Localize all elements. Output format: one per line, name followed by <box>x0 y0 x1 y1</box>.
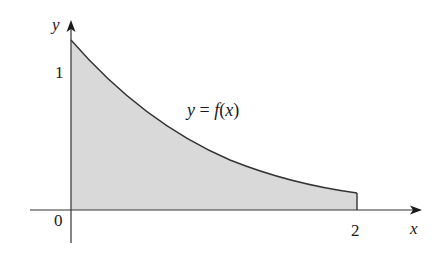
x-tick-2-label: 2 <box>351 221 360 240</box>
curve-label-x: x <box>224 100 233 120</box>
curve-label-eq: = <box>195 100 214 120</box>
curve-label-close: ) <box>233 100 239 121</box>
curve-label-y: y <box>185 100 195 120</box>
area-under-curve-chart: y x 0 1 2 y = f(x) <box>0 0 447 259</box>
y-tick-1-label: 1 <box>55 63 64 82</box>
origin-label: 0 <box>54 211 63 230</box>
curve-label: y = f(x) <box>185 100 239 121</box>
x-axis-label: x <box>409 219 418 238</box>
y-axis-label: y <box>50 15 60 34</box>
shaded-area <box>71 40 357 210</box>
